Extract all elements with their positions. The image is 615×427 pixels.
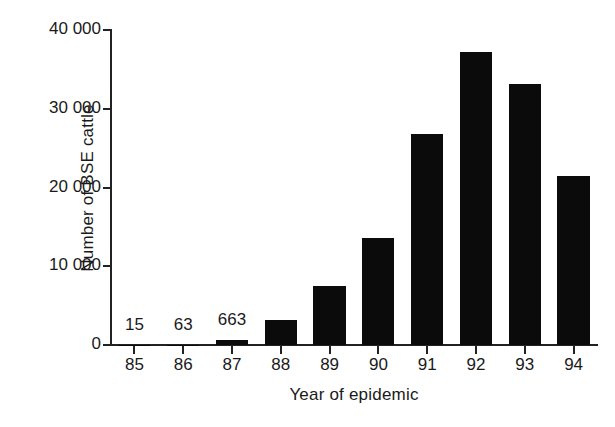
x-axis-tick-label: 90	[355, 355, 401, 375]
x-axis-tick	[280, 346, 282, 354]
y-axis-tick	[103, 108, 111, 110]
y-axis-tick-label: 30 000	[6, 98, 101, 118]
bse-cattle-bar-chart: Number of BSE cattle 010 00020 00030 000…	[0, 0, 615, 427]
bar-value-label: 663	[202, 310, 262, 330]
x-axis-tick	[182, 346, 184, 354]
x-axis-tick-label: 92	[453, 355, 499, 375]
x-axis-tick	[329, 346, 331, 354]
bar-series	[110, 30, 598, 345]
y-axis-tick-label: 20 000	[6, 177, 101, 197]
x-axis-tick	[377, 346, 379, 354]
y-axis-tick-label: 0	[6, 334, 101, 354]
x-axis-tick	[426, 346, 428, 354]
y-axis-tick	[103, 344, 111, 346]
y-axis-tick-labels: 010 00020 00030 00040 000	[0, 0, 101, 427]
x-axis-tick	[231, 346, 233, 354]
x-axis-tick-label: 86	[160, 355, 206, 375]
x-axis-tick-label: 94	[551, 355, 597, 375]
x-axis-tick	[524, 346, 526, 354]
bar	[411, 134, 443, 345]
bar	[509, 84, 541, 345]
bar	[265, 320, 297, 345]
x-axis-tick-label: 93	[502, 355, 548, 375]
x-axis-tick-label: 85	[111, 355, 157, 375]
x-axis-title: Year of epidemic	[110, 385, 598, 405]
bar	[557, 176, 589, 345]
bar	[216, 340, 248, 345]
bar	[460, 52, 492, 345]
y-axis-tick	[103, 187, 111, 189]
x-axis-tick	[475, 346, 477, 354]
x-axis-tick	[573, 346, 575, 354]
bar	[313, 286, 345, 345]
x-axis-tick	[133, 346, 135, 354]
bar	[362, 238, 394, 345]
x-axis-tick-label: 88	[258, 355, 304, 375]
y-axis-tick	[103, 265, 111, 267]
y-axis-tick-label: 40 000	[6, 19, 101, 39]
x-axis-tick-label: 91	[404, 355, 450, 375]
y-axis-tick-label: 10 000	[6, 255, 101, 275]
y-axis-tick	[103, 29, 111, 31]
x-axis-tick-label: 89	[307, 355, 353, 375]
x-axis-tick-label: 87	[209, 355, 255, 375]
